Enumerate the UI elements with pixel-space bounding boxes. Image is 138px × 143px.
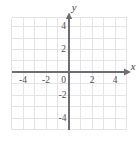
y-tick-label--2: -2 bbox=[59, 90, 67, 100]
coordinate-grid-figure: -4 -2 0 2 4 4 2 -2 -4 x y bbox=[0, 0, 138, 143]
axis-lines bbox=[12, 13, 132, 130]
y-axis-name: y bbox=[71, 2, 77, 13]
x-tick-label--4: -4 bbox=[19, 75, 27, 85]
y-axis-arrowhead-icon bbox=[66, 13, 72, 20]
origin-label: 0 bbox=[61, 75, 66, 85]
x-tick-label--2: -2 bbox=[42, 75, 50, 85]
x-tick-label-4: 4 bbox=[113, 75, 118, 85]
x-axis-name: x bbox=[130, 61, 136, 72]
x-tick-label-2: 2 bbox=[90, 75, 95, 85]
y-tick-label-2: 2 bbox=[61, 44, 66, 54]
y-tick-label-4: 4 bbox=[61, 21, 66, 31]
y-tick-label--4: -4 bbox=[59, 113, 67, 123]
cartesian-plane: -4 -2 0 2 4 4 2 -2 -4 x y bbox=[0, 0, 138, 143]
